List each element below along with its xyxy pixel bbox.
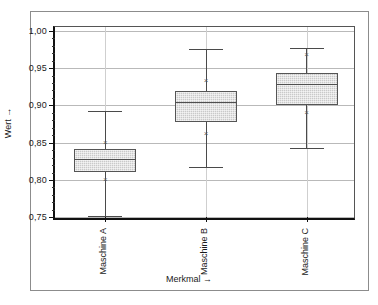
median-line <box>175 102 237 103</box>
y-tick-major <box>49 105 55 106</box>
y-tick-minor <box>52 46 56 47</box>
y-tick-minor <box>52 76 56 77</box>
whisker-cap-lower <box>290 148 324 149</box>
y-tick-minor <box>52 83 56 84</box>
y-tick-major <box>49 180 55 181</box>
x-category-label: Maschine A <box>98 228 108 275</box>
median-line <box>276 84 338 85</box>
y-tick-minor <box>52 150 56 151</box>
box-iqr <box>74 149 136 172</box>
y-tick-minor <box>52 135 56 136</box>
whisker-cap-lower <box>88 216 122 217</box>
y-tick-minor <box>52 120 56 121</box>
x-axis-title: Merkmal → <box>0 274 378 284</box>
y-tick-major <box>49 143 55 144</box>
y-gridline <box>55 143 354 144</box>
x-category-label: Maschine C <box>300 228 310 276</box>
whisker-cap-upper <box>189 49 223 50</box>
y-tick-minor <box>52 53 56 54</box>
marker-x: × <box>204 77 209 85</box>
y-gridline <box>55 180 354 181</box>
marker-x: × <box>304 51 309 59</box>
y-tick-minor <box>52 195 56 196</box>
marker-x: × <box>103 176 108 184</box>
y-gridline <box>55 31 354 32</box>
y-tick-label: 0,85 <box>29 138 47 148</box>
y-tick-major <box>49 68 55 69</box>
y-tick-label: 0,95 <box>29 63 47 73</box>
x-category-label: Maschine B <box>199 228 209 275</box>
boxplot-figure: 1,000,950,900,850,800,75 ×××××× Wert → M… <box>0 0 378 305</box>
y-tick-minor <box>52 158 56 159</box>
y-tick-minor <box>52 187 56 188</box>
marker-x: × <box>304 109 309 117</box>
box-iqr <box>175 91 237 122</box>
y-gridline <box>55 217 354 218</box>
x-tick <box>105 217 106 222</box>
x-tick <box>307 217 308 222</box>
y-tick-minor <box>52 113 56 114</box>
whisker-cap-upper <box>88 111 122 112</box>
y-tick-minor <box>52 90 56 91</box>
y-tick-minor <box>52 210 56 211</box>
whisker-cap-lower <box>189 167 223 168</box>
y-tick-label: 0,75 <box>29 212 47 222</box>
y-tick-major <box>49 217 55 218</box>
box-iqr <box>276 73 338 105</box>
y-tick-minor <box>52 173 56 174</box>
marker-x: × <box>103 139 108 147</box>
median-line <box>74 159 136 160</box>
y-gridline <box>55 68 354 69</box>
plot-area: 1,000,950,900,850,800,75 ×××××× <box>53 26 355 220</box>
y-tick-major <box>49 31 55 32</box>
y-tick-minor <box>52 38 56 39</box>
y-tick-minor <box>52 61 56 62</box>
y-tick-minor <box>52 128 56 129</box>
y-tick-label: 0,80 <box>29 175 47 185</box>
y-tick-minor <box>52 165 56 166</box>
x-tick <box>206 217 207 222</box>
y-axis-title: Wert → <box>3 108 13 138</box>
marker-x: × <box>204 130 209 138</box>
y-tick-minor <box>52 202 56 203</box>
y-tick-minor <box>52 98 56 99</box>
y-tick-label: 1,00 <box>29 26 47 36</box>
y-tick-label: 0,90 <box>29 100 47 110</box>
